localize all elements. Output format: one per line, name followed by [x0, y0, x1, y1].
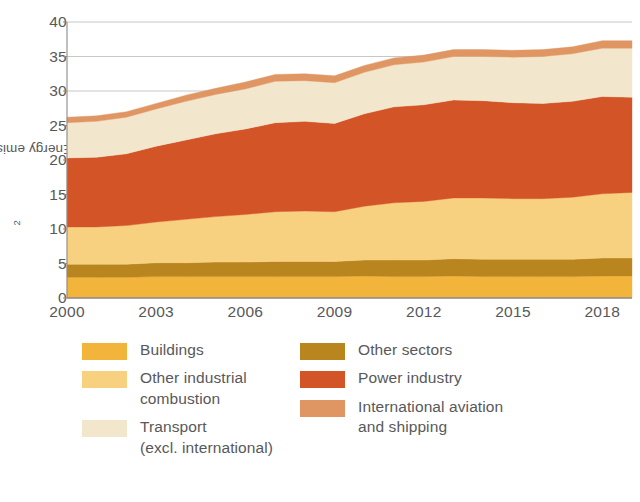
x-axis-tick-label: 2000	[49, 303, 85, 321]
legend-item[interactable]: Transport (excl. international)	[82, 417, 300, 458]
legend-item-label: Transport (excl. international)	[140, 417, 273, 458]
legend-item-label: Other industrial combustion	[140, 368, 247, 409]
legend-swatch-other-industrial-combustion	[82, 371, 127, 388]
x-axis-tick-label: 2015	[495, 303, 531, 321]
legend-swatch-transport	[82, 420, 127, 437]
figure-emissions-by-sector: Energy emissions (GtCO2) 051015202530354…	[0, 0, 640, 502]
legend-item[interactable]: International aviation and shipping	[300, 397, 576, 438]
x-axis-tick-label: 2003	[138, 303, 174, 321]
x-axis-tick-label: 2006	[228, 303, 264, 321]
legend-swatch-buildings	[82, 343, 127, 360]
area-series-buildings	[67, 276, 632, 298]
legend-column-left: BuildingsOther industrial combustionTran…	[0, 340, 300, 502]
x-axis-tick-label: 2012	[406, 303, 442, 321]
legend-item[interactable]: Buildings	[82, 340, 300, 360]
legend-item-label: Power industry	[358, 368, 462, 388]
legend-item[interactable]: Power industry	[300, 368, 576, 388]
legend-swatch-international-aviation	[300, 400, 345, 417]
x-axis-tick-label: 2009	[317, 303, 353, 321]
legend-item[interactable]: Other sectors	[300, 340, 576, 360]
x-axis-tick-label: 2018	[584, 303, 620, 321]
legend-swatch-other-sectors	[300, 343, 345, 360]
legend-item-label: International aviation and shipping	[358, 397, 503, 438]
legend-column-right: Other sectorsPower industryInternational…	[300, 340, 576, 502]
legend-item-label: Other sectors	[358, 340, 452, 360]
legend-item[interactable]: Other industrial combustion	[82, 368, 300, 409]
stacked-area-chart	[0, 0, 640, 336]
legend-item-label: Buildings	[140, 340, 204, 360]
chart-legend: BuildingsOther industrial combustionTran…	[0, 340, 640, 502]
plot-area: Energy emissions (GtCO2) 051015202530354…	[0, 0, 640, 336]
legend-swatch-power-industry	[300, 371, 345, 388]
